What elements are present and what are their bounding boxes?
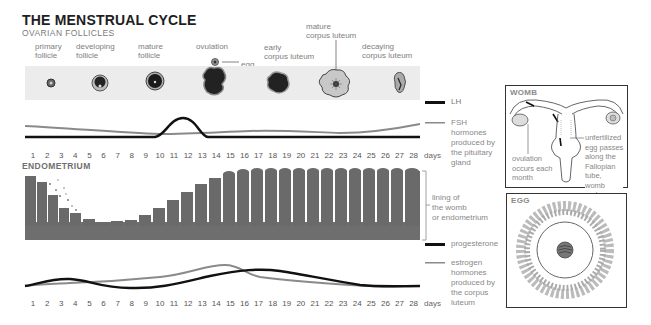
days-unit-label-bottom: days xyxy=(424,299,441,308)
day-tick: 12 xyxy=(181,299,195,308)
day-tick: 9 xyxy=(139,299,153,308)
caption-line: hormones xyxy=(451,128,495,138)
label-line: tube, xyxy=(585,171,623,181)
caption-line: the pituitary xyxy=(451,148,495,158)
developing-follicle-icon xyxy=(92,75,108,91)
decaying-corpus-luteum-icon xyxy=(394,72,405,92)
day-tick: 12 xyxy=(181,151,195,160)
day-tick: 8 xyxy=(125,151,139,160)
day-tick: 17 xyxy=(252,151,266,160)
day-tick: 14 xyxy=(209,299,223,308)
fsh-legend-swatch xyxy=(425,122,445,124)
label-line: occurs each xyxy=(512,164,552,174)
ovulation-label: ovulation occurs each month xyxy=(512,154,552,183)
fsh-legend-label: FSH xyxy=(451,118,495,128)
day-tick: 10 xyxy=(153,151,167,160)
day-tick: 19 xyxy=(280,299,294,308)
lh-legend-label: LH xyxy=(451,97,461,107)
endometrium-heading: ENDOMETRIUM xyxy=(22,161,91,171)
day-tick: 7 xyxy=(111,299,125,308)
label-line: ovulation xyxy=(512,154,552,164)
label-line: month xyxy=(512,173,552,183)
day-tick: 7 xyxy=(111,151,125,160)
endometrium-illustration xyxy=(25,168,430,240)
day-tick: 22 xyxy=(322,299,336,308)
day-tick: 8 xyxy=(125,299,139,308)
days-unit-label-top: days xyxy=(424,151,441,160)
day-tick: 15 xyxy=(223,299,237,308)
day-tick: 25 xyxy=(364,299,378,308)
day-tick: 24 xyxy=(350,299,364,308)
primary-follicle-icon xyxy=(47,79,55,87)
day-tick: 23 xyxy=(336,151,350,160)
day-tick: 4 xyxy=(68,151,82,160)
caption-line: hormones xyxy=(451,268,495,278)
estrogen-legend-swatch xyxy=(425,262,445,264)
caption-line: produced by xyxy=(451,278,495,288)
day-tick: 6 xyxy=(96,299,110,308)
day-tick: 11 xyxy=(167,299,181,308)
endometrium-caption: lining of the womb or endometrium xyxy=(432,193,488,223)
day-tick: 1 xyxy=(26,299,40,308)
womb-panel: WOMB ovulation occurs each month unferti… xyxy=(505,85,628,188)
day-tick: 9 xyxy=(139,151,153,160)
day-tick: 3 xyxy=(54,299,68,308)
label-line: egg passes xyxy=(585,143,623,153)
day-tick: 2 xyxy=(40,299,54,308)
day-tick: 13 xyxy=(195,299,209,308)
ovarian-caption: estrogen hormones produced by the corpus… xyxy=(451,258,495,308)
day-tick: 5 xyxy=(82,299,96,308)
caption-line: the womb xyxy=(432,203,488,213)
caption-line: produced by xyxy=(451,138,495,148)
day-tick: 16 xyxy=(237,299,251,308)
day-tick: 19 xyxy=(280,151,294,160)
caption-line: or endometrium xyxy=(432,213,488,223)
day-tick: 23 xyxy=(336,299,350,308)
caption-line: lining of xyxy=(432,193,488,203)
label-line: womb xyxy=(585,181,623,191)
pituitary-caption: FSH hormones produced by the pituitary g… xyxy=(451,118,495,168)
mature-corpus-luteum-icon xyxy=(319,70,349,98)
egg-cell-icon xyxy=(507,194,626,307)
day-tick: 2 xyxy=(40,151,54,160)
day-tick: 1 xyxy=(26,151,40,160)
day-tick: 22 xyxy=(322,151,336,160)
day-tick: 15 xyxy=(223,151,237,160)
day-tick: 26 xyxy=(378,299,392,308)
day-tick: 21 xyxy=(308,299,322,308)
label-line: along the xyxy=(585,152,623,162)
estrogen-legend-label: estrogen xyxy=(451,258,495,268)
label-line: unfertilized xyxy=(585,133,623,143)
day-tick: 18 xyxy=(266,151,280,160)
day-tick: 28 xyxy=(407,299,421,308)
day-tick: 20 xyxy=(294,151,308,160)
progesterone-legend-swatch xyxy=(425,243,445,246)
day-tick: 4 xyxy=(68,299,82,308)
caption-line: the corpus xyxy=(451,288,495,298)
label-line: Fallopian xyxy=(585,162,623,172)
day-tick: 14 xyxy=(209,151,223,160)
day-tick: 20 xyxy=(294,299,308,308)
day-tick: 21 xyxy=(308,151,322,160)
pituitary-hormone-chart xyxy=(25,118,420,137)
day-tick: 10 xyxy=(153,299,167,308)
day-tick: 3 xyxy=(54,151,68,160)
day-tick: 16 xyxy=(237,151,251,160)
day-tick: 11 xyxy=(167,151,181,160)
day-tick: 25 xyxy=(364,151,378,160)
day-tick: 26 xyxy=(378,151,392,160)
day-axis-top: 1234567891011121314151617181920212223242… xyxy=(26,151,421,160)
progesterone-legend-label: progesterone xyxy=(451,239,498,249)
day-tick: 13 xyxy=(195,151,209,160)
day-tick: 24 xyxy=(350,151,364,160)
day-tick: 17 xyxy=(252,299,266,308)
day-tick: 27 xyxy=(392,151,406,160)
day-tick: 28 xyxy=(407,151,421,160)
mature-follicle-icon xyxy=(146,72,164,90)
day-axis-bottom: 1234567891011121314151617181920212223242… xyxy=(26,299,421,308)
day-tick: 18 xyxy=(266,299,280,308)
day-tick: 27 xyxy=(392,299,406,308)
early-corpus-luteum-icon xyxy=(267,72,289,93)
caption-line: gland xyxy=(451,158,495,168)
egg-panel: EGG xyxy=(506,193,627,308)
